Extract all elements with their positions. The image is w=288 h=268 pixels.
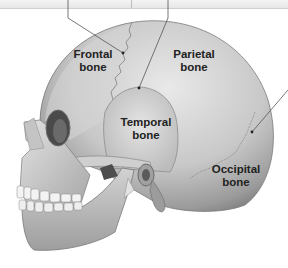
label-frontal-bone: Frontal bone xyxy=(66,48,120,74)
label-temporal-bone: Temporal bone xyxy=(114,116,178,142)
label-parietal-bone: Parietal bone xyxy=(166,48,222,74)
skull-diagram: Frontal bone Parietal bone Temporal bone… xyxy=(0,0,288,268)
label-occipital-bone: Occipital bone xyxy=(206,163,266,189)
